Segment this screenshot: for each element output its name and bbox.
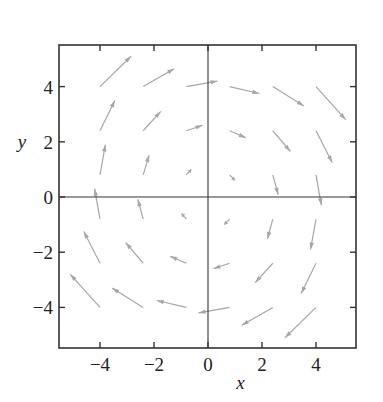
arrowhead-icon: [112, 288, 119, 294]
x-tick-label: 4: [311, 354, 321, 375]
field-arrow: [126, 243, 144, 264]
field-arrow: [273, 131, 291, 152]
field-arrow: [143, 111, 161, 130]
field-arrow: [310, 219, 316, 249]
field-arrow: [138, 199, 144, 219]
field-arrow: [100, 100, 115, 130]
field-arrow: [112, 288, 143, 307]
x-tick-label: 2: [257, 354, 267, 375]
field-arrow: [94, 189, 100, 219]
field-arrow: [143, 155, 149, 175]
y-axis-label: y: [16, 131, 27, 152]
field-arrow: [267, 219, 273, 239]
arrowhead-icon: [252, 90, 259, 94]
x-tick-label: −4: [90, 354, 111, 375]
arrowhead-icon: [297, 100, 304, 106]
arrowhead-icon: [110, 100, 115, 107]
arrowhead-icon: [301, 286, 306, 293]
field-arrow: [186, 80, 217, 86]
arrowhead-icon: [327, 155, 332, 162]
arrowhead-icon: [157, 300, 164, 304]
field-arrow: [182, 214, 187, 220]
field-arrow: [316, 131, 332, 163]
y-tick-label: 4: [44, 77, 54, 98]
field-arrow: [255, 263, 273, 282]
field-arrow: [242, 307, 273, 325]
field-arrow: [70, 274, 100, 307]
field-arrow: [273, 175, 279, 195]
x-tick-label: 0: [203, 354, 213, 375]
field-arrow: [100, 56, 131, 86]
tick-layer: −4−2024−4−2024: [33, 45, 356, 375]
vector-field-chart: −4−2024−4−2024 x y: [0, 0, 383, 402]
arrowhead-icon: [167, 69, 174, 74]
origin-axes: [59, 45, 356, 348]
field-arrow: [213, 263, 229, 269]
y-tick-label: −2: [33, 242, 53, 263]
field-arrow: [186, 125, 202, 131]
arrowhead-icon: [170, 256, 177, 261]
x-tick-label: −2: [144, 354, 164, 375]
field-arrow: [224, 219, 229, 225]
arrowhead-icon: [242, 320, 249, 325]
field-arrow: [170, 256, 186, 263]
y-tick-label: −4: [33, 297, 54, 318]
field-arrow: [199, 307, 230, 313]
field-arrow: [143, 69, 174, 87]
field-arrow: [316, 87, 346, 120]
field-arrow: [186, 169, 191, 175]
field-arrow: [285, 307, 316, 337]
field-arrow: [100, 145, 106, 175]
y-tick-label: 2: [44, 132, 54, 153]
arrowhead-icon: [213, 264, 220, 268]
field-arrow: [316, 175, 322, 205]
arrowhead-icon: [274, 187, 278, 194]
arrowhead-icon: [138, 199, 142, 206]
y-tick-label: 0: [44, 187, 54, 208]
arrowhead-icon: [84, 232, 89, 239]
x-axis-label: x: [235, 372, 245, 393]
field-arrow: [230, 131, 246, 138]
field-arrow: [230, 175, 235, 181]
field-arrow: [301, 263, 316, 293]
field-arrow: [273, 87, 304, 106]
arrowhead-icon: [267, 232, 271, 239]
field-arrow: [230, 87, 260, 94]
arrowhead-icon: [145, 155, 149, 162]
field-arrow: [84, 232, 100, 264]
field-arrow: [157, 300, 187, 307]
arrowhead-icon: [238, 133, 245, 138]
arrowhead-icon: [195, 125, 202, 129]
